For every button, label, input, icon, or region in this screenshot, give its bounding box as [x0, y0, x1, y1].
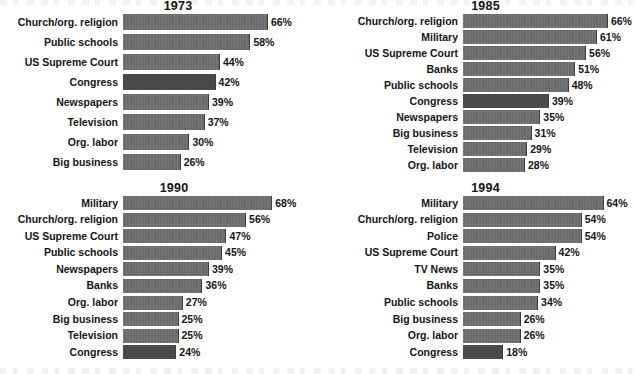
bar [123, 74, 216, 90]
bar-track: 54% [463, 213, 635, 227]
bar [463, 78, 569, 92]
bar-track: 51% [463, 62, 635, 76]
bar-track: 39% [123, 262, 318, 276]
panel-title-1994: 1994 [318, 182, 635, 195]
bar-category-label: Church/org. religion [0, 17, 123, 28]
bar-track: 66% [463, 14, 635, 28]
bar-category-label: Congress [318, 96, 463, 107]
bar [463, 312, 521, 326]
bar-value-label: 42% [556, 247, 580, 258]
bar-track: 31% [463, 126, 635, 140]
bar-row: Congress39% [318, 94, 635, 108]
bar [123, 329, 179, 343]
bar [463, 279, 540, 293]
bar-category-label: Banks [0, 280, 123, 291]
bar-row: Military61% [318, 30, 635, 44]
bar-value-label: 25% [179, 330, 203, 341]
bar-track: 39% [123, 94, 318, 110]
bar-category-label: Church/org. religion [318, 214, 463, 225]
bar-category-label: Church/org. religion [0, 214, 123, 225]
bar-category-label: Congress [0, 347, 123, 358]
bar-track: 27% [123, 296, 318, 310]
bar-row: US Supreme Court47% [0, 229, 318, 243]
bar-row: Public schools48% [318, 78, 635, 92]
bar-category-label: US Supreme Court [318, 247, 463, 258]
bar-track: 47% [123, 229, 318, 243]
bar-row: Public schools34% [318, 296, 635, 310]
bar [123, 213, 246, 227]
bar-category-label: Big business [318, 314, 463, 325]
bar-track: 26% [463, 329, 635, 343]
bar-category-label: US Supreme Court [0, 57, 123, 68]
bar [123, 345, 176, 359]
bar-row: US Supreme Court44% [0, 54, 318, 70]
bar-track: 37% [123, 114, 318, 130]
bar-row: Banks51% [318, 62, 635, 76]
bar-rows-1990: Military68%Church/org. religion56%US Sup… [0, 196, 318, 359]
bar-category-label: Big business [0, 314, 123, 325]
bar-category-label: Org. labor [318, 160, 463, 171]
bar [123, 312, 179, 326]
bar [123, 94, 209, 110]
bar-category-label: Org. labor [0, 297, 123, 308]
bar [463, 94, 549, 108]
bar-row: Television25% [0, 329, 318, 343]
bar-row: US Supreme Court56% [318, 46, 635, 60]
bar-row: Military64% [318, 196, 635, 210]
bar-track: 58% [123, 34, 318, 50]
bar-category-label: Congress [0, 77, 123, 88]
bar-row: Television29% [318, 142, 635, 156]
bar [463, 196, 604, 210]
bar-track: 35% [463, 279, 635, 293]
bar-category-label: Big business [318, 128, 463, 139]
bar-row: Big business31% [318, 126, 635, 140]
bar-category-label: Television [318, 144, 463, 155]
bar [123, 14, 268, 30]
bar-category-label: Military [0, 198, 123, 209]
bar [463, 110, 540, 124]
bar [463, 14, 608, 28]
bar-value-label: 48% [569, 80, 593, 91]
bar-category-label: Congress [318, 347, 463, 358]
bar-track: 28% [463, 158, 635, 172]
bar-track: 34% [463, 296, 635, 310]
bar-row: TV News35% [318, 262, 635, 276]
bar-track: 39% [463, 94, 635, 108]
bar-value-label: 34% [538, 297, 562, 308]
bar-value-label: 37% [205, 117, 229, 128]
bar-track: 64% [463, 196, 635, 210]
bar [123, 279, 202, 293]
confidence-in-institutions-figure: 1973 Church/org. religion66%Public schoo… [0, 0, 635, 374]
panel-title-1973: 1973 [0, 0, 318, 13]
bar-row: Newspapers39% [0, 262, 318, 276]
bar [123, 229, 226, 243]
bar-row: Org. labor28% [318, 158, 635, 172]
bar-value-label: 44% [220, 57, 244, 68]
bar [123, 262, 209, 276]
bar-track: 44% [123, 54, 318, 70]
bar-track: 30% [123, 134, 318, 150]
bar [123, 54, 220, 70]
bar-rows-1994: Military64%Church/org. religion54%Police… [318, 196, 635, 359]
chart-panel-1985: 1985 Church/org. religion66%Military61%U… [318, 0, 635, 174]
bar-category-label: Newspapers [318, 112, 463, 123]
bar-row: Big business26% [0, 154, 318, 170]
bar-category-label: Org. labor [0, 137, 123, 148]
bar-track: 25% [123, 329, 318, 343]
bar-value-label: 56% [586, 48, 610, 59]
bar-row: Newspapers35% [318, 110, 635, 124]
bar-row: US Supreme Court42% [318, 246, 635, 260]
bar-category-label: Banks [318, 64, 463, 75]
bar-value-label: 26% [521, 314, 545, 325]
bar-row: Military68% [0, 196, 318, 210]
bar-track: 29% [463, 142, 635, 156]
bar-row: Banks36% [0, 279, 318, 293]
bar-track: 35% [463, 110, 635, 124]
bar-row: Public schools45% [0, 246, 318, 260]
bar-value-label: 58% [250, 37, 274, 48]
bar-category-label: Org. labor [318, 330, 463, 341]
bar [463, 262, 540, 276]
bar-track: 24% [123, 345, 318, 359]
bar-track: 66% [123, 14, 318, 30]
chart-panel-1994: 1994 Military64%Church/org. religion54%P… [318, 182, 635, 362]
